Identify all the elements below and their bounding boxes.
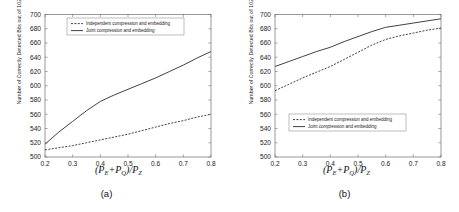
y-tick-label: 540	[30, 125, 41, 132]
legend-entry-joint-label: Joint compression and embedding	[86, 28, 155, 33]
y-tick-label: 680	[30, 25, 41, 32]
y-tick-label: 620	[260, 68, 271, 75]
chart-panel-b: 5005205405605806006206406606807000.20.30…	[230, 0, 459, 212]
y-tick-label: 600	[30, 82, 41, 89]
panel-caption-a: (a)	[0, 188, 221, 199]
series-line-joint	[275, 19, 441, 67]
series-b	[275, 19, 441, 91]
y-tick-label: 700	[30, 11, 41, 18]
y-axis-title-b: Number of Correctly Detected Bits out of…	[248, 0, 254, 120]
series-line-independent	[45, 114, 211, 150]
y-tick-label: 600	[260, 82, 271, 89]
axes-b: 5005205405605806006206406606807000.20.30…	[260, 11, 446, 167]
figure-two-panel-line-charts: 5005205405605806006206406606807000.20.30…	[0, 0, 459, 212]
chart-panel-a: 5005205405605806006206406606807000.20.30…	[0, 0, 229, 212]
y-tick-label: 580	[260, 96, 271, 103]
y-tick-label: 520	[30, 139, 41, 146]
plot-area-b: 5005205405605806006206406606807000.20.30…	[230, 0, 459, 212]
y-axis-title-a: Number of Correctly Detected Bits out of…	[16, 0, 22, 120]
y-tick-label: 540	[260, 125, 271, 132]
axis-frame	[275, 15, 441, 158]
x-axis-title-b: (PE+PQ)/PZ	[232, 164, 459, 176]
panel-caption-b: (b)	[230, 188, 459, 199]
y-tick-label: 660	[30, 39, 41, 46]
series-line-joint	[45, 52, 211, 145]
y-tick-label: 640	[30, 54, 41, 61]
legend-entry-independent-label: Independent compression and embedding	[86, 21, 171, 26]
legend-a: Independent compression and embeddingJoi…	[67, 18, 184, 35]
series-line-independent	[275, 28, 441, 91]
legend-entry-joint-label: Joint compression and embedding	[308, 124, 377, 129]
y-tick-label: 620	[30, 68, 41, 75]
legend-entry-independent-label: Independent compression and embedding	[308, 117, 393, 122]
y-tick-label: 660	[260, 39, 271, 46]
y-tick-label: 580	[30, 96, 41, 103]
x-title-sub3: Z	[366, 169, 370, 176]
legend-b: Independent compression and embeddingJoi…	[289, 114, 406, 131]
series-a	[45, 52, 211, 150]
y-tick-label: 560	[30, 111, 41, 118]
y-tick-label: 680	[260, 25, 271, 32]
y-tick-label: 700	[260, 11, 271, 18]
plot-area-a: 5005205405605806006206406606807000.20.30…	[0, 0, 229, 212]
y-tick-label: 520	[260, 139, 271, 146]
x-axis-title-a: (PE+PQ)/PZ	[4, 164, 233, 176]
axis-frame	[45, 15, 211, 158]
x-title-sub3: Z	[138, 169, 142, 176]
y-tick-label: 560	[260, 111, 271, 118]
y-tick-label: 640	[260, 54, 271, 61]
